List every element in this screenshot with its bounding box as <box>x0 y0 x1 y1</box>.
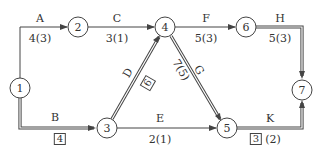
activity-c-duration: 3(1) <box>106 33 129 44</box>
activity-b-duration: 4 <box>54 133 66 145</box>
node-6-label: 6 <box>243 22 250 33</box>
activity-h-duration: 5(3) <box>269 33 292 44</box>
activity-k-duration: 3 <box>250 133 262 145</box>
node-5-label: 5 <box>224 123 231 134</box>
node-4-label: 4 <box>162 22 169 33</box>
activity-e-duration: 2(1) <box>149 134 172 145</box>
activity-f-name: F <box>202 13 210 24</box>
activity-f-duration: 5(3) <box>195 33 218 44</box>
node-7-label: 7 <box>299 85 306 96</box>
activity-a-name: A <box>36 13 44 24</box>
node-1-label: 1 <box>17 83 24 94</box>
activity-e-name: E <box>156 113 164 124</box>
activity-b-name: B <box>51 112 59 123</box>
activity-h-name: H <box>275 13 285 24</box>
node-2-label: 2 <box>75 22 82 33</box>
network-diagram <box>0 0 321 153</box>
activity-k-name: K <box>266 113 274 124</box>
node-3-label: 3 <box>104 123 111 134</box>
activity-a-duration: 4(3) <box>29 33 52 44</box>
activity-k-extra: (2) <box>265 134 281 145</box>
activity-c-name: C <box>113 13 121 24</box>
